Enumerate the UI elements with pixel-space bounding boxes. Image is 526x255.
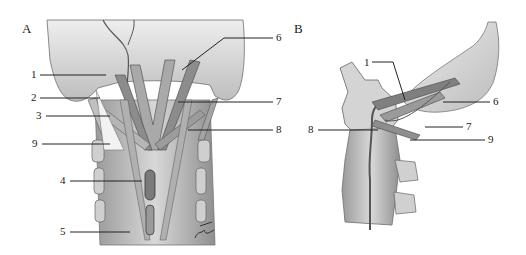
label-a-1: 1 xyxy=(31,68,37,80)
panel-a-letter: A xyxy=(22,21,32,36)
label-b-8: 8 xyxy=(308,123,314,135)
label-a-3: 3 xyxy=(36,109,42,121)
label-b-1: 1 xyxy=(364,56,370,68)
label-a-4: 4 xyxy=(60,174,66,186)
panel-b: B 1 8 6 7 9 xyxy=(294,21,499,230)
panel-a: A xyxy=(22,20,282,245)
label-b-9: 9 xyxy=(488,133,494,145)
anatomical-figure: A xyxy=(0,0,526,255)
label-a-6: 6 xyxy=(276,31,282,43)
label-a-2: 2 xyxy=(31,91,37,103)
occipital-bone-lateral xyxy=(402,22,499,112)
label-b-7: 7 xyxy=(466,120,472,132)
label-a-9: 9 xyxy=(32,137,38,149)
label-a-7: 7 xyxy=(276,95,282,107)
label-a-8: 8 xyxy=(276,123,282,135)
panel-b-letter: B xyxy=(294,21,303,36)
spinous-processes-lateral xyxy=(394,160,418,214)
label-b-6: 6 xyxy=(493,95,499,107)
label-a-5: 5 xyxy=(60,225,66,237)
occipital-bone xyxy=(47,20,244,101)
